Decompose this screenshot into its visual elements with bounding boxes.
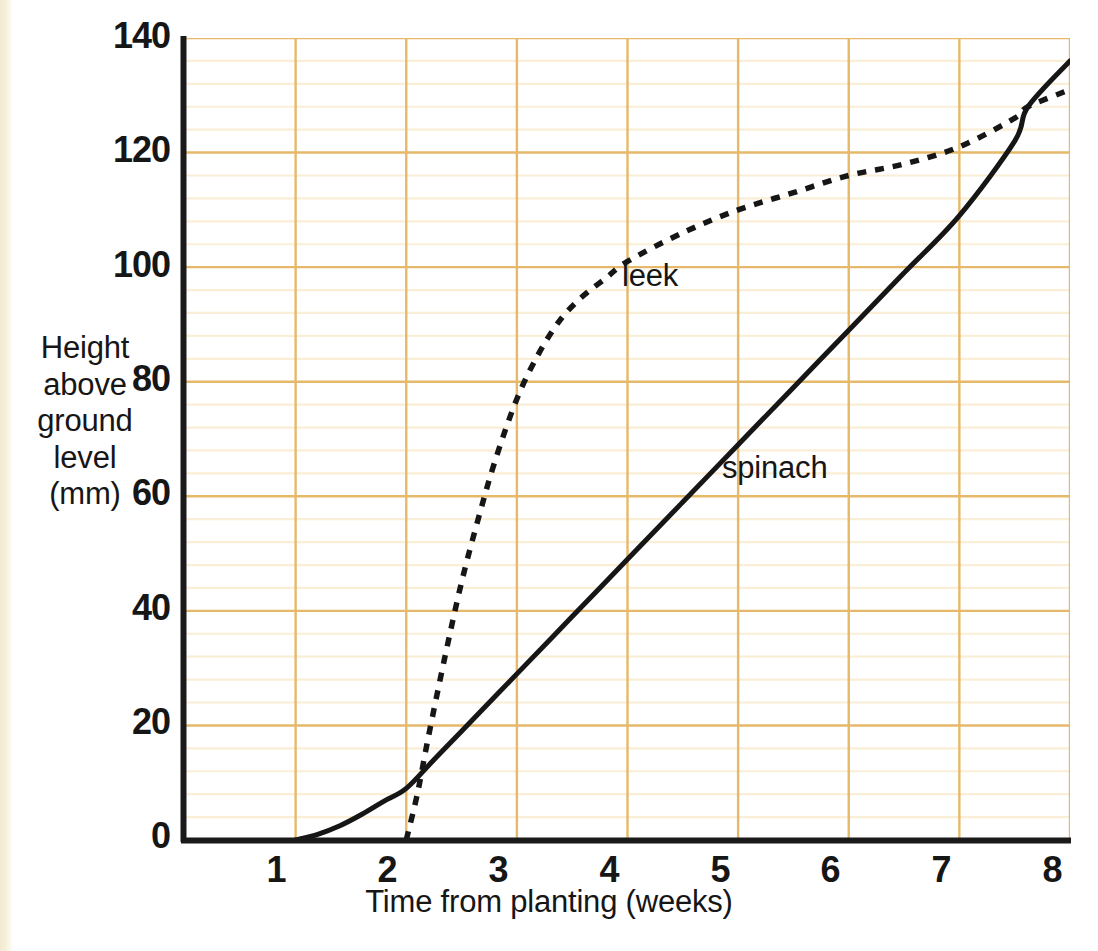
leek-series-label: leek <box>622 258 678 294</box>
chart-page: 140 120 100 80 60 40 20 0 1 2 3 4 5 6 7 … <box>0 0 1098 951</box>
y-axis-title-line-2: above <box>10 367 160 404</box>
y-axis-title: Height above ground level (mm) <box>10 330 160 513</box>
y-axis-title-line-4: level <box>10 440 160 477</box>
x-tick-labels: 1 2 3 4 5 6 7 8 <box>0 0 1098 951</box>
y-axis-title-line-3: ground <box>10 403 160 440</box>
x-tick-2: 2 <box>357 852 417 888</box>
x-tick-3: 3 <box>468 852 528 888</box>
x-tick-8: 8 <box>1022 852 1082 888</box>
spinach-series-label: spinach <box>722 450 827 486</box>
x-axis-title: Time from planting (weeks) <box>0 884 1098 920</box>
y-axis-title-line-1: Height <box>10 330 160 367</box>
y-axis-title-line-5: (mm) <box>10 476 160 513</box>
x-tick-6: 6 <box>800 852 860 888</box>
x-tick-4: 4 <box>579 852 639 888</box>
growth-chart-figure: 140 120 100 80 60 40 20 0 1 2 3 4 5 6 7 … <box>0 0 1098 951</box>
x-tick-1: 1 <box>246 852 306 888</box>
x-tick-5: 5 <box>690 852 750 888</box>
x-tick-7: 7 <box>911 852 971 888</box>
